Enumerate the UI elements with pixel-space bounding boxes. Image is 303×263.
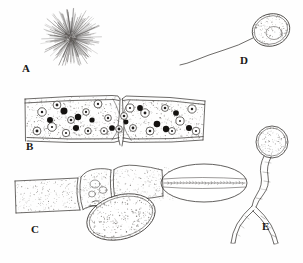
stipple-dot: [200, 142, 201, 143]
stipple-dot: [80, 203, 81, 204]
stipple-dot: [278, 135, 279, 136]
stipple-dot: [288, 152, 289, 153]
stipple-dot: [42, 105, 43, 106]
stipple-dot: [45, 180, 46, 181]
stipple-dot: [38, 197, 39, 198]
panel-d-zoospore-body: [248, 9, 294, 51]
stipple-dot: [67, 202, 68, 203]
stipple-dot: [120, 97, 121, 98]
stipple-dot: [115, 220, 116, 221]
stipple-dot: [268, 140, 269, 141]
stipple-dot: [201, 124, 202, 125]
stipple-dot: [272, 18, 273, 19]
stipple-dot: [70, 110, 71, 111]
stipple-dot: [139, 229, 140, 230]
stipple-dot: [80, 139, 81, 140]
stipple-dot: [95, 141, 96, 142]
stipple-dot: [107, 193, 108, 194]
stipple-dot: [88, 212, 89, 213]
stipple-dot: [57, 184, 58, 185]
stipple-dot: [267, 150, 268, 151]
stipple-dot: [68, 177, 69, 178]
stipple-dot: [121, 108, 122, 109]
stipple-dot: [175, 202, 176, 203]
stipple-dot: [113, 141, 114, 142]
stipple-dot: [157, 204, 158, 205]
stipple-dot: [106, 134, 107, 135]
stipple-dot: [104, 237, 105, 238]
stipple-dot: [142, 137, 143, 138]
stipple-dot: [78, 209, 79, 210]
stipple-dot: [154, 170, 155, 171]
stipple-dot: [196, 119, 197, 120]
stipple-dot: [144, 191, 145, 192]
stipple-dot: [72, 198, 73, 199]
stipple-dot: [84, 121, 85, 122]
stipple-dot: [127, 170, 128, 171]
stipple-dot: [41, 131, 42, 132]
stipple-dot: [41, 121, 42, 122]
stipple-dot: [81, 195, 82, 196]
stipple-dot: [94, 221, 95, 222]
stipple-dot: [102, 122, 103, 123]
stipple-dot: [49, 210, 50, 211]
stipple-dot: [101, 216, 102, 217]
stipple-dot: [106, 172, 107, 173]
stipple-dot: [72, 133, 73, 134]
stipple-dot: [119, 112, 120, 113]
stipple-dot: [268, 19, 269, 20]
stipple-dot: [143, 122, 144, 123]
stipple-dot: [14, 202, 15, 203]
stipple-dot: [143, 168, 144, 169]
stipple-dot: [95, 170, 96, 171]
stipple-dot: [41, 182, 42, 183]
stipple-dot: [29, 102, 30, 103]
stipple-dot: [147, 228, 148, 229]
stipple-dot: [79, 176, 80, 177]
stipple-dot: [99, 194, 100, 195]
stipple-dot: [110, 211, 111, 212]
stipple-dot: [71, 137, 72, 138]
stipple-dot: [156, 195, 157, 196]
stipple-dot: [120, 235, 121, 236]
stipple-dot: [257, 130, 258, 131]
stipple-dot: [48, 137, 49, 138]
stipple-dot: [128, 131, 129, 132]
stipple-dot: [65, 127, 66, 128]
stipple-dot: [143, 224, 144, 225]
stipple-dot: [79, 202, 80, 203]
stipple-dot: [289, 130, 290, 131]
stipple-dot: [172, 201, 173, 202]
stipple-dot: [280, 145, 281, 146]
stipple-dot: [130, 169, 131, 170]
stipple-dot: [51, 105, 52, 106]
stipple-dot: [94, 128, 95, 129]
stipple-dot: [31, 205, 32, 206]
stipple-dot: [292, 13, 293, 14]
stipple-dot: [271, 146, 272, 147]
panel-e-branch-left-outer: [231, 206, 252, 243]
stipple-dot: [201, 107, 202, 108]
stipple-dot: [111, 172, 112, 173]
stipple-dot: [30, 209, 31, 210]
stipple-dot: [134, 173, 135, 174]
stipple-dot: [79, 97, 80, 98]
stipple-dot: [38, 116, 39, 117]
stipple-dot: [115, 114, 116, 115]
stipple-dot: [115, 203, 116, 204]
stipple-dot: [132, 223, 133, 224]
stipple-dot: [153, 172, 154, 173]
stipple-dot: [143, 222, 144, 223]
infected-cell-nucleolus: [179, 120, 181, 122]
stipple-dot: [280, 38, 281, 39]
stipple-dot: [120, 176, 121, 177]
stipple-dot: [31, 124, 32, 125]
stipple-dot: [102, 199, 103, 200]
stipple-dot: [111, 180, 112, 181]
stipple-dot: [130, 239, 131, 240]
stipple-dot: [127, 208, 128, 209]
stipple-dot: [126, 134, 127, 135]
stipple-dot: [158, 203, 159, 204]
stipple-dot: [286, 13, 287, 14]
stipple-dot: [161, 172, 162, 173]
